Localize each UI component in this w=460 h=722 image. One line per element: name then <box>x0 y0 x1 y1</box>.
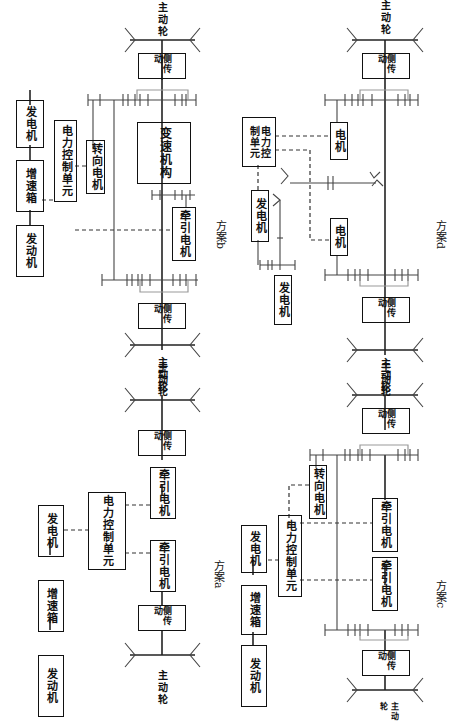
engine-box-a: 发动机 <box>38 655 64 717</box>
drive-wheel-label-a-bottom: 主动轮 <box>154 670 169 706</box>
side-drive-box-d-bottom: 侧传动 <box>362 297 410 323</box>
generator-box-d-1: 发电机 <box>251 190 269 242</box>
drive-wheel-label-b-top: 主动轮 <box>154 2 169 38</box>
engine-box-c: 发动机 <box>241 645 267 707</box>
traction-motor-box-a-top: 牵引电机 <box>150 467 176 519</box>
caption-scheme-b: 方案b <box>212 220 228 249</box>
side-drive-box-b-top: 侧传动 <box>138 53 186 79</box>
motor-box-d-bottom: 电机 <box>330 218 348 256</box>
side-drive-box-c-bottom: 侧传动 <box>362 650 410 676</box>
traction-motor-box-a-bottom: 牵引电机 <box>150 540 176 592</box>
side-drive-box-b-bottom: 侧传动 <box>138 303 186 329</box>
steering-motor-box-b: 转向电机 <box>86 140 105 194</box>
engine-box-b: 发动机 <box>16 225 44 277</box>
traction-motor-box-b: 牵引电机 <box>172 207 196 261</box>
drive-wheel-label-d-top: 主动轮 <box>377 0 392 36</box>
generator-box-a: 发电机 <box>38 505 64 557</box>
side-drive-box-a-bottom: 侧传动 <box>138 605 186 631</box>
steering-motor-box-c: 转向电机 <box>309 465 327 519</box>
side-drive-box-c-top: 侧传动 <box>362 408 410 434</box>
motor-box-d-top: 电机 <box>330 122 348 160</box>
caption-scheme-c: 方案c <box>432 580 448 608</box>
transmission-mech-box-b: 变速机构 <box>137 122 191 184</box>
power-control-unit-box-a: 电力控制单元 <box>88 492 126 570</box>
power-control-unit-box-c: 电力控制单元 <box>278 515 302 597</box>
traction-motor-box-c-top: 牵引电机 <box>372 498 398 552</box>
side-drive-box-a-top: 侧传动 <box>138 430 186 456</box>
traction-motor-box-c-bottom: 牵引电机 <box>372 557 398 611</box>
power-control-unit-box-d: 电力控 制单元 <box>242 117 276 167</box>
drive-wheel-label-c-bottom: 主动轮 <box>377 702 399 722</box>
generator-box-b: 发电机 <box>16 100 44 148</box>
caption-scheme-a: 方案a <box>210 560 226 589</box>
gearbox-box-b: 增速箱 <box>16 160 44 212</box>
generator-box-d-2: 发电机 <box>274 275 292 325</box>
gearbox-box-c: 增速箱 <box>241 585 267 635</box>
drive-wheel-label-a-top: 主动轮 <box>154 362 169 398</box>
power-control-unit-box-b: 电力控制单元 <box>54 120 77 202</box>
side-drive-box-d-top: 侧传动 <box>362 53 410 79</box>
caption-scheme-d: 方案d <box>432 220 448 249</box>
drive-wheel-label-c-top: 主动轮 <box>377 358 392 394</box>
gearbox-box-a: 增速箱 <box>38 580 64 632</box>
generator-box-c: 发电机 <box>241 525 267 573</box>
